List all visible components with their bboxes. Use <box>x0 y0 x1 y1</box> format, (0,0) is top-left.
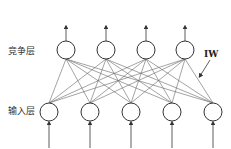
competitive-layer-label: 竞争层 <box>8 45 35 56</box>
input-layer-label: 输入层 <box>8 105 35 116</box>
input-neuron <box>163 103 181 121</box>
competitive-neuron <box>137 41 155 59</box>
weights-label: IW <box>204 49 219 59</box>
competitive-neuron <box>97 41 115 59</box>
input-layer <box>40 103 222 148</box>
input-neuron <box>81 103 99 121</box>
network-diagram: 竞争层 输入层 IW <box>0 0 231 149</box>
input-neuron <box>122 103 140 121</box>
input-neuron <box>204 103 222 121</box>
connections <box>49 59 213 103</box>
input-neuron <box>40 103 58 121</box>
weights-pointer-arrow <box>200 60 210 76</box>
competitive-neuron <box>57 41 75 59</box>
competitive-layer <box>57 27 194 59</box>
competitive-neuron <box>176 41 194 59</box>
